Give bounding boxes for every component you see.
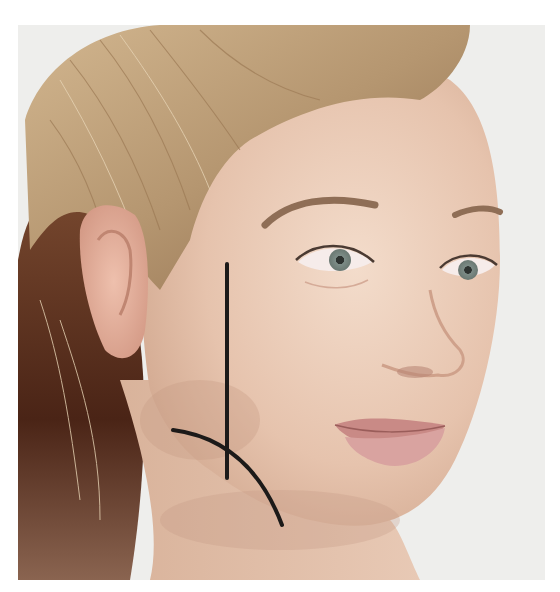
face-photo: [18, 25, 545, 580]
face-illustration: [18, 25, 545, 580]
